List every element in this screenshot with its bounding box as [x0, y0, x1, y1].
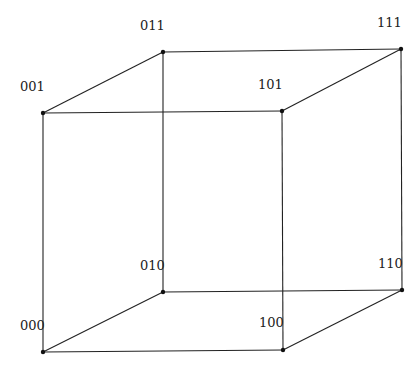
edge-101-111 [282, 49, 401, 111]
vertex-label-100: 100 [259, 315, 284, 330]
vertex-010 [161, 290, 165, 294]
vertex-111 [399, 47, 403, 51]
edge-100-110 [283, 290, 402, 350]
cube-vertices [41, 47, 404, 354]
vertex-label-010: 010 [140, 258, 165, 273]
edge-011-111 [163, 49, 401, 52]
vertex-101 [280, 109, 284, 113]
cube-edges [43, 49, 402, 352]
vertex-label-001: 001 [20, 79, 45, 94]
vertex-001 [41, 111, 45, 115]
vertex-label-110: 110 [378, 256, 403, 271]
vertex-label-111: 111 [377, 15, 402, 30]
cube-diagram: 000001010011100101110111 [0, 0, 419, 368]
edge-000-100 [43, 350, 283, 352]
vertex-label-000: 000 [20, 318, 45, 333]
vertex-label-011: 011 [140, 18, 165, 33]
vertex-110 [400, 288, 404, 292]
edge-110-111 [401, 49, 402, 290]
vertex-label-101: 101 [258, 77, 283, 92]
vertex-011 [161, 50, 165, 54]
vertex-000 [41, 350, 45, 354]
vertex-100 [281, 348, 285, 352]
edge-000-010 [43, 292, 163, 352]
edge-001-011 [43, 52, 163, 113]
vertex-labels: 000001010011100101110111 [20, 15, 403, 333]
